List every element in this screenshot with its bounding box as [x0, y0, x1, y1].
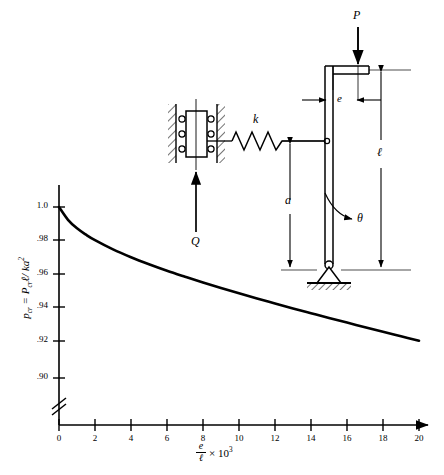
x-tick-label-20: 20: [409, 433, 429, 443]
plot-axes: [52, 185, 428, 431]
x-tick-label-8: 8: [193, 433, 213, 443]
height-a-label: a: [285, 193, 291, 208]
x-tick-label-18: 18: [373, 433, 393, 443]
x-tick-label-14: 14: [301, 433, 321, 443]
roller-block: [179, 99, 214, 170]
guide-rail-left: [168, 104, 176, 163]
data-curve: [59, 207, 419, 341]
guide-rail-right: [217, 104, 225, 163]
x-tick-label-6: 6: [157, 433, 177, 443]
x-axis-multiplier: × 103: [209, 446, 233, 459]
figure-canvas: pcr = Pcrℓ/ ka2 e ℓ × 103 1.0 .98 .96 .9…: [0, 0, 444, 475]
length-l-label: ℓ: [377, 145, 382, 160]
x-axis-fraction: e ℓ: [196, 441, 206, 463]
y-axis-label: pcr = Pcrℓ/ ka2: [18, 228, 34, 348]
x-axis-label: e ℓ × 103: [196, 441, 233, 463]
angle-theta-label: θ: [357, 211, 363, 226]
y-tick-label-1.0: 1.0: [22, 200, 48, 210]
spring-k: [232, 132, 282, 150]
force-Q-label: Q: [191, 234, 200, 249]
y-tick-label-.96: .96: [22, 267, 48, 277]
x-tick-label-4: 4: [121, 433, 141, 443]
x-tick-label-10: 10: [229, 433, 249, 443]
y-tick-label-.94: .94: [22, 300, 48, 310]
eccentricity-e-label: e: [337, 92, 342, 104]
pin-support: [307, 261, 351, 290]
y-tick-label-.90: .90: [22, 371, 48, 381]
column-member: [325, 66, 333, 264]
figure-svg: [0, 0, 444, 475]
top-bracket-arm: [325, 66, 369, 74]
y-tick-label-.98: .98: [22, 233, 48, 243]
spring-k-label: k: [253, 112, 258, 127]
load-P-label: P: [353, 8, 360, 23]
x-tick-label-16: 16: [337, 433, 357, 443]
angle-theta-indicator: [325, 193, 352, 219]
x-tick-label-0: 0: [49, 433, 69, 443]
x-tick-label-12: 12: [265, 433, 285, 443]
x-tick-label-2: 2: [85, 433, 105, 443]
y-tick-label-.92: .92: [22, 334, 48, 344]
